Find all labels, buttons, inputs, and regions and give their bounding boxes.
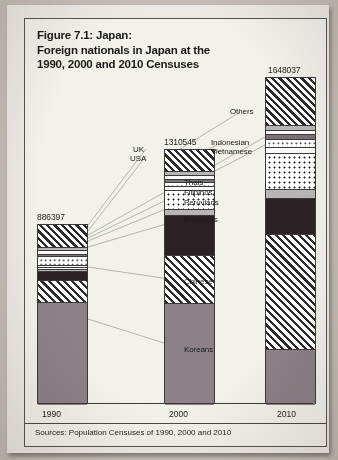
category-label-koreans: Koreans bbox=[184, 345, 213, 354]
scanned-paper: Figure 7.1: Japan: Foreign nationals in … bbox=[7, 5, 329, 453]
bar-2010[interactable] bbox=[265, 77, 316, 404]
figure-frame: Figure 7.1: Japan: Foreign nationals in … bbox=[24, 18, 327, 447]
source-note: Sources: Population Censuses of 1990, 20… bbox=[35, 428, 231, 437]
segment-2010-others bbox=[266, 78, 315, 126]
x-axis-label-1990: 1990 bbox=[42, 409, 61, 419]
category-label-usa: USA bbox=[130, 154, 146, 163]
x-axis-label-2010: 2010 bbox=[277, 409, 296, 419]
category-label-filipinos: Filipinos bbox=[184, 188, 212, 197]
bar-value-2000: 1310545 bbox=[164, 137, 196, 147]
figure-page: Figure 7.1: Japan: Foreign nationals in … bbox=[0, 0, 338, 460]
category-label-peruvians: Peruvians bbox=[184, 198, 219, 207]
segment-2010-vietnamese bbox=[266, 140, 315, 148]
bar-1990[interactable] bbox=[37, 224, 88, 404]
bar-value-2010: 1648037 bbox=[268, 65, 300, 75]
segment-2010-chinese bbox=[266, 235, 315, 350]
category-label-uk: UK bbox=[133, 145, 144, 154]
source-divider bbox=[25, 423, 326, 424]
segment-2010-brazilians bbox=[266, 199, 315, 235]
segment-1990-vietnamese bbox=[38, 257, 87, 266]
category-label-brazilians: Brazilians bbox=[184, 215, 218, 224]
category-label-vietnamese: Vietnamese bbox=[211, 147, 252, 156]
category-label-thais: Thais bbox=[184, 178, 203, 187]
category-label-indonesian: Indonesian bbox=[211, 138, 249, 147]
segment-2010-koreans bbox=[266, 350, 315, 405]
segment-1990-koreans bbox=[38, 303, 87, 405]
segment-1990-others bbox=[38, 225, 87, 248]
segment-2000-others bbox=[165, 150, 214, 172]
segment-2000-koreans bbox=[165, 304, 214, 405]
segment-1990-brazilians bbox=[38, 272, 87, 281]
x-axis-label-2000: 2000 bbox=[169, 409, 188, 419]
segment-1990-chinese bbox=[38, 281, 87, 303]
segment-2010-filipinos bbox=[266, 154, 315, 190]
stacked-bar-chart: 886397 1310545 bbox=[25, 19, 326, 446]
bar-value-1990: 886397 bbox=[37, 212, 65, 222]
segment-2010-peruvians bbox=[266, 190, 315, 199]
category-label-chinese: Chinese bbox=[184, 277, 213, 286]
category-label-others: Others bbox=[230, 107, 253, 116]
x-axis-line bbox=[37, 403, 313, 404]
